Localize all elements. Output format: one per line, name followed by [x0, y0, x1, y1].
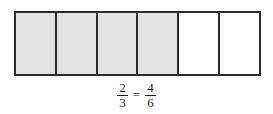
right-fraction-numerator: 4 — [145, 81, 156, 94]
bar-cell-1-shaded — [16, 13, 57, 74]
bar-cell-5-unshaded — [179, 13, 220, 74]
right-fraction-denominator: 6 — [145, 95, 156, 109]
left-fraction-denominator: 3 — [117, 95, 128, 109]
equals-sign: = — [133, 87, 140, 104]
left-fraction-numerator: 2 — [117, 81, 128, 94]
fraction-equation: 2 3 = 4 6 — [0, 78, 273, 112]
bar-cell-3-shaded — [98, 13, 139, 74]
bar-cell-2-shaded — [57, 13, 98, 74]
fraction-figure: 2 3 = 4 6 — [0, 0, 273, 114]
fraction-bar-model — [14, 11, 261, 76]
right-fraction: 4 6 — [145, 81, 156, 109]
left-fraction: 2 3 — [117, 81, 128, 109]
bar-cell-4-shaded — [138, 13, 179, 74]
bar-cell-6-unshaded — [220, 13, 259, 74]
